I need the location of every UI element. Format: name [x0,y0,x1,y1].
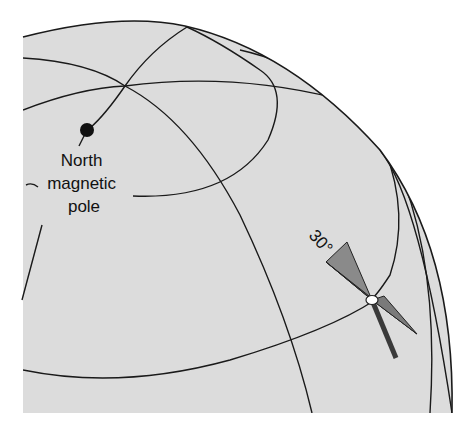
globe-diagram: North magnetic pole 30° [0,0,465,433]
north-magnetic-pole-marker [80,123,94,137]
compass-pivot [366,296,378,305]
sphere-body [23,21,452,413]
